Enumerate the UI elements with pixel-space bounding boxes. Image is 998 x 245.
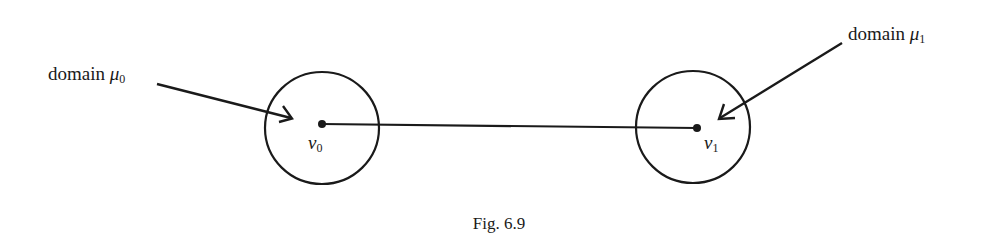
domain-mu0-symbol: μ <box>110 63 120 84</box>
vertex-v1-subscript: 1 <box>712 141 718 155</box>
vertex-v0-subscript: 0 <box>316 141 322 155</box>
domain-mu1-symbol: μ <box>910 23 920 44</box>
arrow-to-mu1-icon <box>719 43 842 119</box>
vertex-v0-label: v0 <box>308 133 322 154</box>
domain-mu1-text: domain <box>848 23 905 44</box>
figure-caption: Fig. 6.9 <box>0 215 998 232</box>
vertex-v1-label: v1 <box>704 133 718 154</box>
domain-mu0-label: domain μ0 <box>48 64 125 85</box>
vertex-v1-dot <box>693 124 701 132</box>
domain-mu0-text: domain <box>48 63 105 84</box>
domain-mu0-subscript: 0 <box>119 72 125 86</box>
vertex-v0-dot <box>318 120 326 128</box>
domain-mu1-label: domain μ1 <box>848 24 925 45</box>
domain-mu1-subscript: 1 <box>919 32 925 46</box>
